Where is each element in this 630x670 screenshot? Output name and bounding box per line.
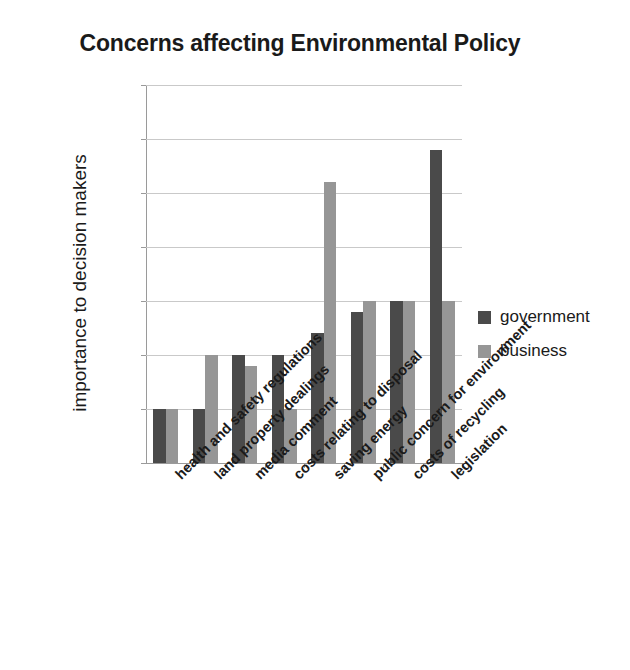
bar-group [193,85,218,463]
chart-legend: governmentbusiness [478,300,623,368]
y-tick-mark [141,463,146,464]
bar-business[interactable] [324,182,337,463]
y-tick-mark [141,85,146,86]
y-axis-title: importance to decision makers [69,93,91,473]
legend-item-government[interactable]: government [478,300,623,334]
y-tick-mark [141,409,146,410]
bar-business[interactable] [166,409,179,463]
y-tick-mark [141,193,146,194]
bar-chart-figure: Concerns affecting Environmental Policy … [0,0,630,670]
y-tick-mark [141,247,146,248]
plot-area [146,85,462,463]
legend-swatch-icon [478,345,491,358]
legend-label: government [500,307,590,327]
y-tick-mark [141,301,146,302]
legend-swatch-icon [478,311,491,324]
y-tick-mark [141,139,146,140]
legend-label: business [500,341,567,361]
bar-group [153,85,178,463]
chart-title: Concerns affecting Environmental Policy [0,30,600,57]
bar-government[interactable] [153,409,166,463]
y-tick-mark [141,355,146,356]
legend-item-business[interactable]: business [478,334,623,368]
